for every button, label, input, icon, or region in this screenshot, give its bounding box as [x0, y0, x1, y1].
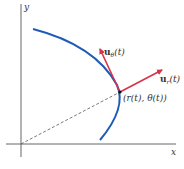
y-axis-label: y: [23, 2, 30, 12]
x-axis-label: x: [171, 147, 176, 157]
u-r-label: ur(t): [160, 74, 181, 85]
point-marker: [118, 90, 121, 93]
polar-curve: [33, 29, 120, 140]
point-label: (r(t), θ(t)): [123, 93, 167, 103]
u-theta-label: uθ(t): [104, 47, 125, 58]
polar-diagram: y x (r(t), θ(t)) uθ(t) ur(t): [0, 0, 184, 169]
radial-dashed-line: [21, 92, 120, 144]
u-r-vector: [120, 70, 162, 92]
